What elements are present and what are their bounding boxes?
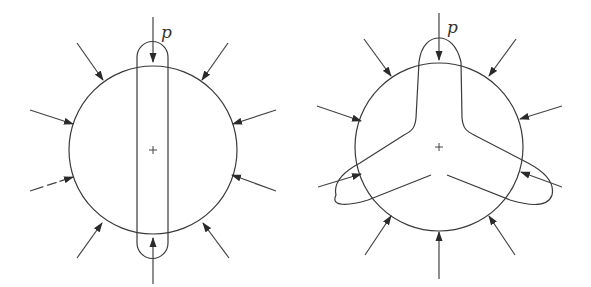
arrow-icon <box>521 172 562 187</box>
arrow-icon <box>232 175 276 191</box>
right-figure: p <box>317 13 562 279</box>
center-cross-icon <box>149 146 157 154</box>
arrow-icon <box>318 174 361 187</box>
arrow-icon <box>364 39 391 76</box>
center-cross-icon <box>435 143 443 151</box>
left-figure: p <box>30 17 276 284</box>
arrow-icon <box>77 223 102 258</box>
arrow-icon <box>489 216 515 255</box>
arrow-icon <box>317 106 361 121</box>
arrow-icon <box>203 223 229 258</box>
arrow-icon <box>520 106 562 119</box>
right-load-label: p <box>447 17 458 37</box>
arrow-icon <box>30 110 73 124</box>
arrow-icon <box>202 43 228 80</box>
arrow-icon <box>489 39 516 76</box>
arrow-icon <box>233 110 276 124</box>
arrow-icon <box>77 43 103 80</box>
arrow-icon <box>365 216 391 255</box>
diagram-canvas: p p <box>0 0 591 287</box>
arrow-icon <box>30 177 73 191</box>
left-load-label: p <box>161 22 172 42</box>
